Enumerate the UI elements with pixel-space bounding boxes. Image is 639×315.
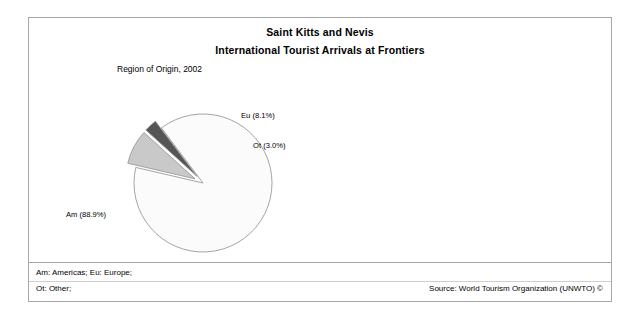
pie-chart [69,73,309,263]
pie-label-eu: Eu (8.1%) [241,111,275,120]
plot-area: Eu (8.1%) Ot (3.0%) Am (88.9%) [29,18,613,263]
pie-label-am: Am (88.9%) [66,210,106,219]
pie-slices [128,114,272,252]
legend-abbreviations-line-1: Am: Americas; Eu: Europe; [36,268,132,277]
legend-abbreviations-line-2: Ot: Other; [36,284,71,293]
pie-label-ot: Ot (3.0%) [253,141,286,150]
footer-divider-secondary [29,281,611,282]
source-note: Source: World Tourism Organization (UNWT… [429,284,603,293]
footer-divider [29,262,611,263]
chart-frame: Saint Kitts and Nevis International Tour… [28,17,612,302]
